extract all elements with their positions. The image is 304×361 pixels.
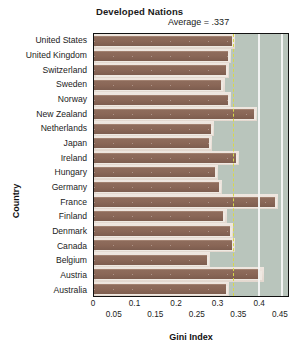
bar-texture: [94, 168, 215, 177]
y-axis-label: United States: [0, 33, 90, 48]
x-axis-tick-labels: 00.10.20.30.40.050.150.250.350.45: [93, 299, 289, 325]
bar-texture: [94, 256, 207, 265]
bar[interactable]: [94, 226, 230, 236]
bar[interactable]: [94, 153, 236, 163]
bar-texture: [94, 52, 228, 61]
gini-index-bar-chart: Developed Nations Average = .337 Country…: [0, 0, 304, 361]
bar-texture: [94, 81, 221, 90]
bar[interactable]: [94, 269, 260, 279]
y-axis-label: Australia: [0, 282, 90, 297]
x-axis-tick: 0.4: [253, 299, 264, 308]
y-axis-label: Norway: [0, 92, 90, 107]
y-axis-label: Finland: [0, 209, 90, 224]
bar-texture: [94, 110, 254, 119]
average-annotation: Average = .337: [168, 17, 229, 27]
x-axis-tick: 0.1: [129, 299, 140, 308]
x-axis-tick: 0.15: [147, 310, 163, 319]
y-axis-label: Hungary: [0, 165, 90, 180]
bar[interactable]: [94, 109, 254, 119]
bar-texture: [94, 241, 232, 250]
bar-texture: [94, 96, 228, 105]
bar[interactable]: [94, 80, 221, 90]
y-axis-label: United Kingdom: [0, 48, 90, 63]
y-axis-label: Sweden: [0, 77, 90, 92]
x-axis-tick: 0: [91, 299, 96, 308]
bar[interactable]: [94, 65, 226, 75]
y-axis-label: Japan: [0, 136, 90, 151]
y-axis-label: Austria: [0, 268, 90, 283]
bar-texture: [94, 125, 211, 134]
bar[interactable]: [94, 124, 211, 134]
y-axis-label: France: [0, 194, 90, 209]
y-axis-label: Canada: [0, 238, 90, 253]
bar[interactable]: [94, 51, 228, 61]
bar[interactable]: [94, 138, 209, 148]
y-axis-tick-labels: United StatesUnited KingdomSwitzerlandSw…: [0, 33, 90, 297]
y-axis-label: Switzerland: [0, 62, 90, 77]
bar[interactable]: [94, 95, 228, 105]
x-axis-tick: 0.25: [189, 310, 205, 319]
bar[interactable]: [94, 167, 215, 177]
x-axis-title: Gini Index: [93, 332, 289, 342]
bar[interactable]: [94, 197, 275, 207]
bar[interactable]: [94, 284, 226, 294]
bar[interactable]: [94, 211, 223, 221]
x-axis-tick: 0.45: [272, 310, 288, 319]
bar[interactable]: [94, 36, 232, 46]
x-axis-tick: 0.35: [230, 310, 246, 319]
y-axis-label: Netherlands: [0, 121, 90, 136]
gridline: [281, 34, 283, 296]
y-axis-label: New Zealand: [0, 106, 90, 121]
chart-title: Developed Nations: [96, 6, 183, 17]
bar-texture: [94, 154, 236, 163]
bar-texture: [94, 198, 275, 207]
bar[interactable]: [94, 255, 207, 265]
bar-texture: [94, 285, 226, 294]
y-axis-label: Denmark: [0, 224, 90, 239]
gridline: [258, 34, 260, 296]
bar-texture: [94, 212, 223, 221]
bar-texture: [94, 66, 226, 75]
x-axis-tick: 0.05: [106, 310, 122, 319]
bar-texture: [94, 227, 230, 236]
bar-texture: [94, 183, 219, 192]
bar[interactable]: [94, 240, 232, 250]
bar-texture: [94, 270, 260, 279]
y-axis-label: Belgium: [0, 253, 90, 268]
y-axis-label: Germany: [0, 180, 90, 195]
y-axis-label: Ireland: [0, 150, 90, 165]
bar-texture: [94, 37, 232, 46]
average-line: [233, 34, 234, 296]
x-axis-tick: 0.2: [170, 299, 181, 308]
x-axis-tick: 0.3: [212, 299, 223, 308]
bar-texture: [94, 139, 209, 148]
plot-area: [93, 33, 289, 297]
bar[interactable]: [94, 182, 219, 192]
